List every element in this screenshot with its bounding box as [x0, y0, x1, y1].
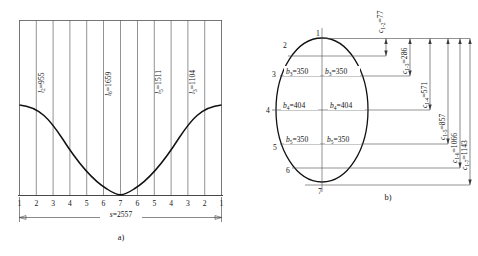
panel-b: 1 2 3 4 5 6 7 b3=350 b3=350 b4=404	[266, 10, 472, 202]
overall-dimension-value: =2557	[113, 210, 133, 219]
station-number-9: 4	[169, 199, 173, 208]
overall-dimension-label: s=2557	[110, 210, 133, 219]
ordinate-c1-5: c1-5=857	[438, 39, 450, 145]
length-label-l2-value: =955	[37, 72, 46, 88]
technical-drawing: l2=955 l6=1659 l5=1511 l3=1104 1 2 3 4 5…	[0, 0, 478, 256]
point-label-3: 3	[272, 70, 276, 79]
c1-7-arrow-bottom-icon	[468, 180, 471, 186]
ordinate-c1-4-label: c1-4=571	[420, 82, 430, 108]
point-label-7: 7	[318, 187, 322, 196]
panel-a-caption: a)	[118, 233, 125, 242]
half-breadth-b4-right-text: b4=404	[330, 101, 352, 111]
c1-4-value: =571	[420, 82, 429, 98]
station-number-1: 2	[34, 199, 38, 208]
half-breadth-b5-right-text: b5=350	[327, 135, 349, 145]
half-breadth-b3-left: b3=350	[284, 66, 320, 77]
half-breadth-b3-left-text: b3=350	[286, 67, 308, 77]
ordinate-c1-2-label: c1-2=77	[376, 10, 386, 33]
c1-2-value: =77	[376, 10, 385, 22]
b4-right-value: =404	[337, 101, 353, 110]
figure-container: l2=955 l6=1659 l5=1511 l3=1104 1 2 3 4 5…	[0, 0, 478, 256]
station-number-2: 3	[51, 199, 55, 208]
c1-5-value: =857	[438, 114, 447, 130]
station-number-7: 6	[136, 199, 140, 208]
point-label-4: 4	[266, 106, 270, 115]
c1-6-arrow-top-icon	[458, 39, 461, 45]
ordinate-c1-3: c1-3=286	[400, 39, 412, 77]
point-label-6: 6	[286, 166, 290, 175]
c1-2-arrow-bottom-icon	[384, 51, 387, 57]
panel-b-caption: b)	[385, 193, 392, 202]
station-number-6: 7	[119, 199, 123, 208]
c1-7-value: =1143	[460, 140, 469, 159]
length-label-l3: l3=1104	[188, 70, 198, 94]
half-breadth-b3-right-text: b3=350	[325, 67, 347, 77]
half-breadth-b4-left-text: b4=404	[283, 101, 305, 111]
half-breadth-b4-left: b4=404	[281, 100, 318, 111]
b5-right-value: =350	[334, 135, 350, 144]
svg-text:l5=1511: l5=1511	[154, 70, 164, 94]
station-number-4: 5	[85, 199, 89, 208]
c1-2-arrow-top-icon	[384, 39, 387, 45]
point-label-2: 2	[283, 41, 287, 50]
half-breadth-b3-right: b3=350	[324, 66, 360, 77]
length-label-l6-value: =1659	[104, 71, 113, 91]
half-breadth-b5-left: b5=350	[284, 134, 320, 145]
station-number-5: 6	[102, 199, 106, 208]
ordinate-c1-3-label: c1-3=286	[400, 48, 410, 74]
station-number-8: 5	[152, 199, 156, 208]
c1-4-arrow-top-icon	[428, 39, 431, 45]
ordinate-c1-2: c1-2=77	[376, 10, 388, 56]
station-number-3: 4	[68, 199, 72, 208]
ordinate-c1-4: c1-4=571	[420, 39, 432, 111]
station-number-11: 2	[203, 199, 207, 208]
b4-left-value: =404	[290, 101, 306, 110]
length-label-l6: l6=1659	[104, 71, 114, 96]
c1-7-arrow-top-icon	[468, 39, 471, 45]
half-breadth-b5-left-text: b5=350	[286, 135, 308, 145]
panel-a: l2=955 l6=1659 l5=1511 l3=1104 1 2 3 4 5…	[18, 21, 224, 243]
b5-left-value: =350	[293, 135, 309, 144]
c1-3-arrow-top-icon	[408, 39, 411, 45]
station-number-10: 3	[186, 199, 190, 208]
length-label-l2: l2=955	[37, 72, 47, 93]
c1-6-value: =1066	[450, 133, 459, 153]
c1-3-value: =286	[400, 48, 409, 64]
length-label-l5: l5=1511	[154, 70, 164, 94]
point-label-5: 5	[273, 143, 277, 152]
ordinate-c1-7: c1-7=1143	[460, 39, 472, 186]
svg-text:l3=1104: l3=1104	[188, 70, 198, 94]
ordinate-c1-5-label: c1-5=857	[438, 114, 448, 140]
b3-left-value: =350	[293, 67, 309, 76]
svg-text:l6=1659: l6=1659	[104, 71, 114, 96]
ordinate-c1-6-label: c1-6=1066	[450, 133, 460, 163]
b3-right-value: =350	[332, 67, 348, 76]
ordinate-c1-7-label: c1-7=1143	[460, 140, 470, 170]
svg-text:l2=955: l2=955	[37, 72, 47, 93]
half-breadth-b5-right: b5=350	[325, 134, 361, 145]
length-label-l3-value: =1104	[188, 70, 197, 89]
half-breadth-b4-right: b4=404	[328, 100, 365, 111]
c1-5-arrow-top-icon	[446, 39, 449, 45]
point-label-1: 1	[316, 29, 320, 38]
length-label-l5-value: =1511	[154, 70, 163, 89]
